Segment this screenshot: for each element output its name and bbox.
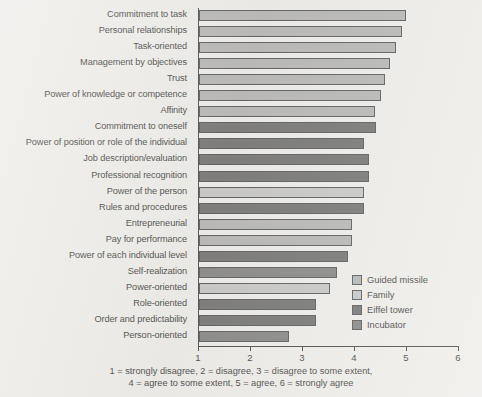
chart-legend: Guided missileFamilyEiffel towerIncubato… — [352, 272, 474, 332]
bar — [199, 10, 406, 21]
bar — [199, 219, 352, 230]
x-axis-tick-label: 6 — [455, 352, 460, 363]
bar — [199, 315, 316, 326]
legend-label: Guided missile — [367, 275, 428, 285]
bar — [199, 267, 337, 278]
bar — [199, 331, 289, 342]
x-axis-tick-label: 5 — [403, 352, 408, 363]
bar — [199, 299, 316, 310]
y-axis-label: Power of the person — [107, 186, 187, 196]
bar-row — [199, 251, 348, 262]
bar — [199, 154, 369, 165]
bar-row — [199, 154, 369, 165]
bar — [199, 74, 385, 85]
y-axis-label: Management by objectives — [80, 57, 187, 67]
bar — [199, 235, 352, 246]
bar-row — [199, 331, 289, 342]
x-axis-tick — [250, 346, 251, 351]
x-axis-tick-label: 4 — [351, 352, 356, 363]
y-axis-label: Trust — [167, 73, 187, 83]
legend-item[interactable]: Incubator — [352, 317, 474, 332]
legend-item[interactable]: Eiffel tower — [352, 302, 474, 317]
y-axis-label: Rules and procedures — [99, 202, 187, 212]
bar-row — [199, 299, 316, 310]
x-axis-tick — [354, 346, 355, 351]
bar-row — [199, 90, 381, 101]
x-axis-tick — [406, 346, 407, 351]
bar-row — [199, 10, 406, 21]
bar-row — [199, 219, 352, 230]
bar-row — [199, 171, 369, 182]
x-axis-tick-label: 1 — [195, 352, 200, 363]
bar — [199, 187, 364, 198]
x-axis-tick-label: 3 — [299, 352, 304, 363]
x-axis-tick — [198, 346, 199, 351]
caption-line-2: 4 = agree to some extent, 5 = agree, 6 =… — [0, 377, 482, 389]
bar-row — [199, 203, 364, 214]
y-axis-label: Role-oriented — [133, 298, 187, 308]
legend-swatch-icon — [352, 290, 362, 300]
chart-caption: 1 = strongly disagree, 2 = disagree, 3 =… — [0, 365, 482, 389]
y-axis-label: Power of each individual level — [69, 250, 187, 260]
y-axis-label: Professional recognition — [91, 170, 187, 180]
bar-row — [199, 122, 376, 133]
y-axis-label: Job description/evaluation — [83, 153, 187, 163]
bar-row — [199, 26, 402, 37]
chart-root: Commitment to taskPersonal relationships… — [0, 0, 482, 397]
bar — [199, 283, 330, 294]
bar-row — [199, 138, 364, 149]
y-axis-label: Commitment to task — [107, 9, 187, 19]
x-axis-tick — [302, 346, 303, 351]
y-axis-label: Personal relationships — [99, 25, 187, 35]
bar — [199, 90, 381, 101]
bar-row — [199, 106, 375, 117]
bar-row — [199, 267, 337, 278]
chart-plot-wrapper: Commitment to taskPersonal relationships… — [0, 0, 482, 397]
y-axis-label: Power-oriented — [126, 282, 187, 292]
bar — [199, 122, 376, 133]
bar — [199, 26, 402, 37]
bar — [199, 203, 364, 214]
y-axis-label: Order and predictability — [94, 314, 187, 324]
bar — [199, 138, 364, 149]
bar-row — [199, 58, 390, 69]
y-axis-label: Power of knowledge or competence — [44, 89, 187, 99]
y-axis-label: Pay for performance — [106, 234, 187, 244]
legend-swatch-icon — [352, 305, 362, 315]
legend-label: Eiffel tower — [367, 305, 413, 315]
legend-swatch-icon — [352, 275, 362, 285]
y-axis-label: Task-oriented — [133, 41, 187, 51]
bar-row — [199, 283, 330, 294]
x-axis-tick — [458, 346, 459, 351]
caption-line-1: 1 = strongly disagree, 2 = disagree, 3 =… — [0, 365, 482, 377]
bar-row — [199, 187, 364, 198]
bar — [199, 106, 375, 117]
bar — [199, 251, 348, 262]
x-axis-tick-label: 2 — [247, 352, 252, 363]
y-axis-label: Affinity — [160, 105, 187, 115]
bar-row — [199, 315, 316, 326]
x-axis-line — [198, 346, 458, 347]
legend-item[interactable]: Guided missile — [352, 272, 474, 287]
bar — [199, 42, 396, 53]
bar-row — [199, 42, 396, 53]
bar — [199, 171, 369, 182]
y-axis-label: Entrepreneurial — [126, 218, 187, 228]
legend-swatch-icon — [352, 320, 362, 330]
y-axis-label: Person-oriented — [123, 330, 187, 340]
bar — [199, 58, 390, 69]
y-axis-label: Power of position or role of the individ… — [26, 137, 187, 147]
legend-label: Family — [367, 290, 394, 300]
y-axis-label: Commitment to oneself — [95, 121, 187, 131]
legend-label: Incubator — [367, 320, 406, 330]
y-axis-label: Self-realization — [128, 266, 187, 276]
bar-row — [199, 74, 385, 85]
legend-item[interactable]: Family — [352, 287, 474, 302]
bar-row — [199, 235, 352, 246]
